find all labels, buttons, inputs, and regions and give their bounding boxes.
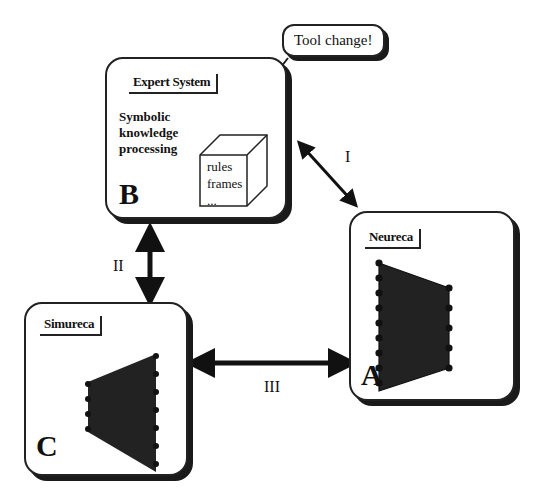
callout-text: Tool change!: [294, 32, 373, 48]
expert-system-box: Expert System Symbolic knowledge process…: [105, 57, 287, 219]
box-a-letter: A: [361, 358, 383, 392]
tool-change-callout: Tool change!: [282, 24, 385, 57]
box-b-letter: B: [119, 177, 139, 211]
arrow-ii-label: II: [113, 257, 124, 275]
box-c-letter: C: [36, 429, 58, 463]
arrow-i-label: I: [345, 148, 350, 166]
cube-items: rules frames ...: [207, 158, 242, 209]
neureca-box: Neureca A: [349, 211, 515, 401]
arrow-iii-label: III: [264, 378, 280, 396]
simureca-box: Simureca C: [24, 302, 188, 476]
